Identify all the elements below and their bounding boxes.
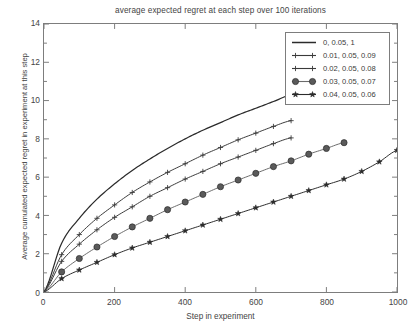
legend-swatch-none-icon <box>289 36 319 49</box>
y-tick-label: 12 <box>6 57 40 67</box>
legend-swatch-star-icon <box>289 88 319 101</box>
x-tick-label: 600 <box>234 297 278 307</box>
y-tick-label: 2 <box>6 249 40 259</box>
legend-label: 0, 0.05, 1 <box>319 38 355 47</box>
chart-title: average expected regret at each step ove… <box>43 6 398 15</box>
legend-item[interactable]: 0.04, 0.05, 0.06 <box>289 88 386 101</box>
y-tick-label: 10 <box>6 95 40 105</box>
x-tick-label: 400 <box>163 297 207 307</box>
series-line <box>44 118 294 292</box>
y-tick-label: 4 <box>6 211 40 221</box>
legend-label: 0.02, 0.05, 0.08 <box>319 64 376 73</box>
legend-label: 0.01, 0.05, 0.09 <box>319 51 376 60</box>
y-axis-tick-labels: 02468101214 <box>0 23 40 293</box>
x-axis-tick-labels: 02004006008001000 <box>43 297 398 311</box>
legend-label: 0.03, 0.05, 0.07 <box>319 77 376 86</box>
legend-swatch-circle-icon <box>289 75 319 88</box>
chart-figure: average expected regret at each step ove… <box>0 0 418 332</box>
x-tick-label: 0 <box>21 297 65 307</box>
series-line <box>44 140 347 292</box>
legend-item[interactable]: 0, 0.05, 1 <box>289 36 386 49</box>
legend-item[interactable]: 0.03, 0.05, 0.07 <box>289 75 386 88</box>
legend-item[interactable]: 0.01, 0.05, 0.09 <box>289 49 386 62</box>
series-line <box>44 95 291 292</box>
y-tick-label: 14 <box>6 18 40 28</box>
legend-label: 0.04, 0.05, 0.06 <box>319 90 376 99</box>
legend-swatch-plus-icon <box>289 62 319 75</box>
x-tick-label: 1000 <box>376 297 418 307</box>
legend-item[interactable]: 0.02, 0.05, 0.08 <box>289 62 386 75</box>
chart-legend: 0, 0.05, 10.01, 0.05, 0.090.02, 0.05, 0.… <box>285 32 390 105</box>
legend-swatch-plus-icon <box>289 49 319 62</box>
x-axis-label: Step in experiment <box>43 312 398 321</box>
y-tick-label: 6 <box>6 172 40 182</box>
x-tick-label: 800 <box>305 297 349 307</box>
y-tick-label: 8 <box>6 134 40 144</box>
x-tick-label: 200 <box>92 297 136 307</box>
